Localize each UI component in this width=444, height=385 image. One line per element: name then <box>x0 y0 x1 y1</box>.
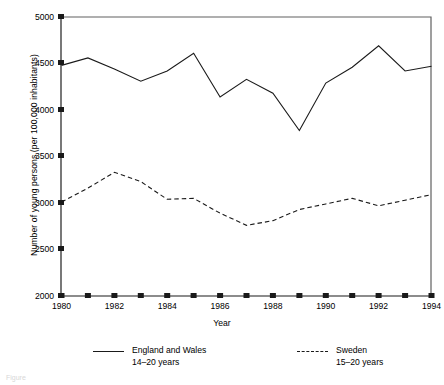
legend-label: England and Wales <box>132 345 206 355</box>
x-tick-label: 1982 <box>94 301 134 311</box>
series-line-sweden <box>62 172 432 225</box>
x-tick-label: 1994 <box>412 301 444 311</box>
x-tick-label: 1986 <box>200 301 240 311</box>
figure-caption: Figure <box>6 374 26 381</box>
legend-line-dashed-icon <box>297 345 328 357</box>
legend-label-group: Sweden 15–20 years <box>336 345 383 368</box>
legend-sublabel: 15–20 years <box>336 357 383 367</box>
legend-item-england-and-wales: England and Wales 14–20 years <box>93 345 206 368</box>
axis-frame <box>61 17 431 296</box>
x-axis-title: Year <box>0 318 444 328</box>
legend-item-sweden: Sweden 15–20 years <box>297 345 383 368</box>
x-tick-label: 1988 <box>253 301 293 311</box>
legend-label: Sweden <box>336 345 367 355</box>
x-tick-label: 1992 <box>359 301 399 311</box>
legend-label-group: England and Wales 14–20 years <box>132 345 206 368</box>
series-line-england-and-wales <box>62 46 432 131</box>
chart-figure: Number of young persons (per 100,000 inh… <box>0 0 444 385</box>
x-tick-label: 1980 <box>42 301 82 311</box>
legend-line-solid-icon <box>93 345 124 357</box>
x-tick-label: 1990 <box>306 301 346 311</box>
x-tick-label: 1984 <box>147 301 187 311</box>
x-axis-tick-labels: 1980 1982 1984 1986 1988 1990 1992 1994 <box>0 301 444 315</box>
x-tick-marks <box>59 293 435 298</box>
chart-legend: England and Wales 14–20 years Sweden 15–… <box>0 345 444 377</box>
legend-sublabel: 14–20 years <box>132 357 179 367</box>
